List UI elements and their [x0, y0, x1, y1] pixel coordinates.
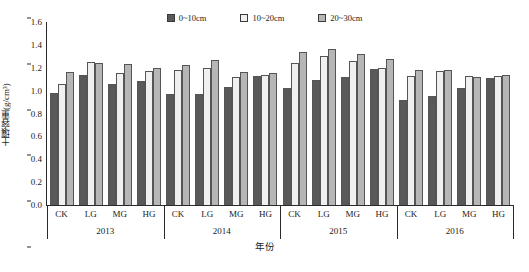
x-tick-label-2014-CK: CK: [164, 206, 193, 223]
bar-2016-LG-10~20cm: [436, 71, 444, 205]
bar-2013-CK-20~30cm: [66, 72, 74, 205]
y-tick-label: 0.0: [31, 201, 42, 210]
bar-2013-CK-10~20cm: [58, 84, 66, 205]
y-tick-mark: [27, 18, 31, 19]
y-tick-label: 1.2: [31, 63, 42, 72]
bar-2016-HG-0~10cm: [486, 78, 494, 205]
y-tick-mark: [27, 155, 31, 156]
y-tick-label: 1.4: [31, 40, 42, 49]
bars-container: [47, 22, 513, 205]
x-tick-label-2014-MG: MG: [222, 206, 251, 223]
bar-2016-MG-10~20cm: [465, 76, 473, 205]
bar-2013-HG-20~30cm: [153, 68, 161, 205]
legend-swatch-0-10cm: [167, 14, 175, 22]
treatment-group-2013-LG: [76, 22, 105, 205]
bar-2015-MG-0~10cm: [341, 77, 349, 205]
y-tick-label: 0.6: [31, 132, 42, 141]
bar-2013-LG-20~30cm: [95, 63, 103, 205]
y-tick-mark: [27, 109, 31, 110]
x-tick-label-2013-MG: MG: [105, 206, 134, 223]
x-tick-label-2013-HG: HG: [134, 206, 163, 223]
bar-2015-LG-10~20cm: [320, 56, 328, 205]
treatment-group-2014-CK: [164, 22, 193, 205]
y-axis-title: 土壤容重(g/cm³): [0, 50, 14, 180]
x-tick-label-2015-MG: MG: [338, 206, 367, 223]
bar-2016-CK-0~10cm: [399, 100, 407, 205]
bar-2014-CK-20~30cm: [182, 65, 190, 205]
treatment-group-2014-MG: [222, 22, 251, 205]
treatment-group-2016-CK: [397, 22, 426, 205]
bar-2015-CK-20~30cm: [299, 52, 307, 205]
x-tick-label-2016-HG: HG: [484, 206, 513, 223]
x-tick-label-2013-CK: CK: [47, 206, 76, 223]
bar-2014-HG-10~20cm: [261, 75, 269, 205]
year-group-2013: [47, 22, 164, 205]
bar-2016-CK-10~20cm: [407, 76, 415, 205]
x-label-group-2016: CKLGMGHG: [397, 206, 514, 223]
bar-2014-LG-20~30cm: [211, 60, 219, 205]
bar-2015-CK-0~10cm: [283, 88, 291, 205]
x-group-label-2015: 2015: [280, 223, 397, 239]
treatment-group-2013-HG: [134, 22, 163, 205]
bar-2014-HG-20~30cm: [269, 73, 277, 205]
bar-2014-LG-0~10cm: [195, 94, 203, 205]
bar-2013-MG-20~30cm: [124, 64, 132, 205]
legend-swatch-20-30cm: [318, 14, 326, 22]
x-tick-label-2015-LG: LG: [309, 206, 338, 223]
bar-2015-CK-10~20cm: [291, 63, 299, 205]
bar-2014-MG-0~10cm: [224, 87, 232, 205]
treatment-group-2015-HG: [367, 22, 396, 205]
x-tick-label-2016-CK: CK: [397, 206, 426, 223]
treatment-group-2015-MG: [338, 22, 367, 205]
x-tick-label-2016-MG: MG: [455, 206, 484, 223]
treatment-group-2013-CK: [47, 22, 76, 205]
group-separator: [164, 205, 165, 239]
bar-2015-LG-0~10cm: [312, 80, 320, 205]
bar-chart: 0~10cm 10~20cm 20~30cm 土壤容重(g/cm³) 0.00.…: [0, 0, 529, 272]
group-separator: [513, 205, 514, 239]
x-group-label-2016: 2016: [397, 223, 514, 239]
x-group-label-2013: 2013: [47, 223, 164, 239]
treatment-group-2016-LG: [426, 22, 455, 205]
y-tick-label: 0.2: [31, 178, 42, 187]
bar-2015-MG-10~20cm: [349, 61, 357, 205]
bar-2016-HG-20~30cm: [502, 75, 510, 205]
x-label-group-2014: CKLGMGHG: [164, 206, 281, 223]
group-separator: [280, 205, 281, 239]
treatment-group-2013-MG: [105, 22, 134, 205]
bar-2013-HG-10~20cm: [145, 71, 153, 205]
bar-2016-HG-10~20cm: [494, 76, 502, 205]
year-group-2016: [397, 22, 514, 205]
bar-2013-LG-10~20cm: [87, 62, 95, 205]
treatment-group-2016-MG: [455, 22, 484, 205]
bar-2016-MG-20~30cm: [473, 77, 481, 205]
bar-2015-MG-20~30cm: [357, 54, 365, 205]
legend-swatch-10-20cm: [240, 14, 248, 22]
x-tick-label-2014-LG: LG: [193, 206, 222, 223]
x-tick-label-2016-LG: LG: [426, 206, 455, 223]
bar-2013-MG-10~20cm: [116, 73, 124, 205]
bar-2013-HG-0~10cm: [137, 81, 145, 205]
bar-2014-MG-10~20cm: [232, 77, 240, 205]
bar-2016-CK-20~30cm: [415, 70, 423, 205]
treatment-group-2014-LG: [193, 22, 222, 205]
x-axis-title: 年份: [0, 241, 529, 253]
group-separator: [397, 205, 398, 239]
x-tick-label-2015-CK: CK: [280, 206, 309, 223]
x-label-group-2015: CKLGMGHG: [280, 206, 397, 223]
bar-2014-LG-10~20cm: [203, 68, 211, 205]
bar-2014-CK-10~20cm: [174, 70, 182, 205]
y-tick-mark: [27, 201, 31, 202]
x-tick-label-2015-HG: HG: [367, 206, 396, 223]
year-group-2015: [280, 22, 397, 205]
y-tick-label: 0.8: [31, 109, 42, 118]
x-group-label-2014: 2014: [164, 223, 281, 239]
x-tick-label-2014-HG: HG: [251, 206, 280, 223]
bar-2013-MG-0~10cm: [108, 84, 116, 205]
bar-2014-CK-0~10cm: [166, 94, 174, 205]
bar-2015-HG-10~20cm: [378, 68, 386, 205]
y-tick-label: 1.6: [31, 18, 42, 27]
bar-2016-MG-0~10cm: [457, 88, 465, 205]
year-group-2014: [164, 22, 281, 205]
bar-2014-HG-0~10cm: [253, 76, 261, 205]
